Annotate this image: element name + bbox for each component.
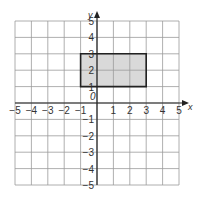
y-tick-label: −5 (83, 180, 95, 191)
x-tick-label: 4 (160, 105, 166, 116)
y-tick-label: −4 (83, 164, 95, 175)
y-tick-label: 3 (88, 49, 94, 60)
coordinate-plane: xy−5−4−3−2−11234554321−1−2−3−4−50 (0, 0, 200, 200)
x-tick-label: −3 (42, 105, 54, 116)
origin-label: 0 (90, 91, 96, 102)
y-tick-label: 2 (88, 65, 94, 76)
x-tick-label: −5 (9, 105, 21, 116)
x-tick-label: 3 (143, 105, 149, 116)
y-tick-label: 4 (88, 32, 94, 43)
y-tick-label: −2 (83, 131, 95, 142)
y-tick-label: −3 (83, 147, 95, 158)
coordinate-grid-diagram: xy−5−4−3−2−11234554321−1−2−3−4−50 (0, 0, 200, 200)
x-tick-label: 2 (127, 105, 133, 116)
x-tick-label: 1 (111, 105, 117, 116)
x-tick-label: −4 (26, 105, 38, 116)
x-axis-label: x (187, 102, 193, 112)
x-tick-label: −2 (58, 105, 70, 116)
y-axis-arrow-icon (94, 11, 100, 18)
y-tick-label: −1 (83, 114, 95, 125)
x-tick-label: 5 (176, 105, 182, 116)
y-tick-label: 5 (88, 16, 94, 27)
